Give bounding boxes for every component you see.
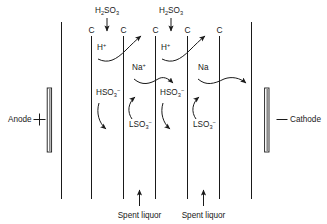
proton-2-sup: +: [167, 42, 170, 48]
acid-feed-2-sub2: 3: [180, 10, 183, 16]
sodium-label-2: Na: [198, 63, 209, 72]
electrodialysis-diagram: C C C C C H2SO3 H2SO3 H+ H+ Na+ Na HSO3−…: [0, 0, 327, 224]
lignosulfonate-label-2: LSO3−: [193, 119, 216, 131]
cathode-electrode-fill: [266, 89, 268, 151]
lignosulfonate-1-base: LSO: [129, 120, 145, 129]
proton-1-sup: +: [103, 42, 106, 48]
spent-liquor-label-2: Spent liquor: [182, 211, 226, 220]
lignosulfonate-transport-arrow-1: [129, 97, 135, 119]
lignosulfonate-1-sub: 3: [145, 124, 148, 130]
proton-label-2: H+: [161, 42, 170, 52]
bisulfite-2-base: HSO: [160, 88, 178, 97]
bisulfite-transport-arrow-2: [162, 103, 170, 129]
sodium-transport-arrow-1: [134, 78, 173, 84]
sodium-transport-arrow-2: [198, 78, 246, 84]
proton-transport-arrow-2: [162, 36, 205, 61]
bisulfite-2-sup: −: [181, 87, 184, 93]
acid-feed-1-mid: SO: [104, 6, 116, 15]
membrane-label-5: C: [216, 25, 222, 35]
bisulfite-2-sub: 3: [178, 92, 181, 98]
sodium-1-base: Na: [132, 63, 143, 72]
lignosulfonate-1-sup: −: [149, 119, 152, 125]
spent-liquor-label-1: Spent liquor: [118, 211, 162, 220]
acid-feed-2-mid: SO: [168, 6, 180, 15]
membrane-label-1: C: [88, 25, 94, 35]
bisulfite-1-base: HSO: [96, 88, 114, 97]
sodium-1-sup: +: [142, 62, 145, 68]
bisulfite-1-sup: −: [117, 87, 120, 93]
acid-feed-label-1: H2SO3: [95, 6, 119, 16]
proton-label-1: H+: [97, 42, 106, 52]
membrane-label-3: C: [152, 25, 158, 35]
bisulfite-label-1: HSO3−: [96, 87, 120, 99]
lignosulfonate-label-1: LSO3−: [129, 119, 152, 131]
lignosulfonate-2-sup: −: [213, 119, 216, 125]
bisulfite-transport-arrow-1: [98, 103, 106, 129]
lignosulfonate-2-sub: 3: [209, 124, 212, 130]
bisulfite-1-sub: 3: [114, 92, 117, 98]
membrane-label-4: C: [184, 25, 190, 35]
sodium-label-1: Na+: [132, 62, 146, 72]
sodium-2-base: Na: [198, 63, 209, 72]
acid-feed-1-sub2: 3: [116, 10, 119, 16]
anode-electrode-fill: [49, 89, 51, 151]
proton-transport-arrow-1: [98, 36, 141, 61]
anode-label: Anode: [8, 115, 32, 124]
membrane-label-2: C: [120, 25, 126, 35]
lignosulfonate-2-base: LSO: [193, 120, 209, 129]
acid-feed-label-2: H2SO3: [159, 6, 183, 16]
cell-schematic: C C C C C H2SO3 H2SO3 H+ H+ Na+ Na HSO3−…: [0, 0, 327, 224]
bisulfite-label-2: HSO3−: [160, 87, 184, 99]
cathode-label: Cathode: [290, 115, 321, 124]
lignosulfonate-transport-arrow-2: [193, 97, 199, 119]
